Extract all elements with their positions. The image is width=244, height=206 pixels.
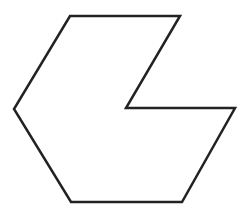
diagram-canvas bbox=[0, 0, 244, 206]
notched-hexagon-shape bbox=[14, 16, 235, 202]
